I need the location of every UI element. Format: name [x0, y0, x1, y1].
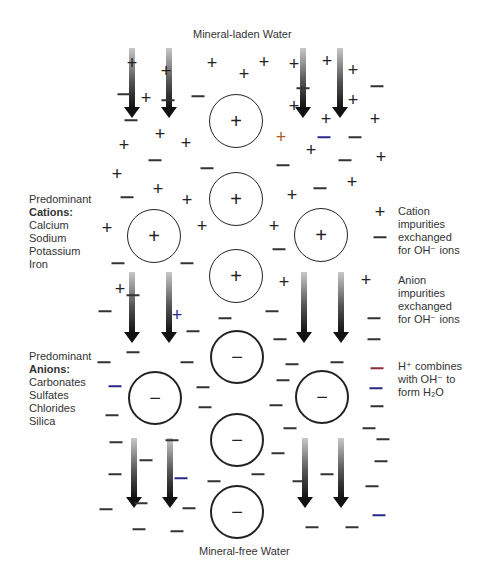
minus-icon	[346, 526, 359, 528]
minus-icon	[140, 459, 153, 461]
plus-icon: +	[348, 91, 359, 109]
down-arrow-icon	[332, 48, 348, 118]
anion-item: Chlorides	[29, 402, 91, 415]
minus-icon	[135, 502, 148, 504]
minus-icon	[110, 441, 123, 443]
minus-icon: −	[212, 347, 262, 367]
minus-icon	[349, 136, 362, 138]
minus-icon	[118, 93, 131, 95]
anion-resin-bead: −	[210, 413, 264, 467]
minus-icon	[199, 406, 212, 408]
anions-bold: Anions:	[29, 363, 91, 376]
down-arrow-icon	[161, 48, 177, 118]
plus-icon: +	[269, 217, 280, 235]
title-mineral-free-water: Mineral-free Water	[199, 545, 290, 557]
minus-icon	[100, 508, 113, 510]
anion-resin-bead: −	[128, 371, 182, 425]
minus-icon: −	[212, 502, 262, 522]
plus-icon: +	[289, 97, 300, 115]
minus-icon	[121, 196, 134, 198]
anion-item: Carbonates	[29, 376, 91, 389]
plus-icon: +	[289, 55, 300, 73]
label-line: form H₂O	[398, 386, 462, 399]
down-arrow-icon	[124, 272, 140, 343]
minus-icon	[363, 427, 376, 429]
cations-bold: Cations:	[29, 206, 91, 219]
arrow-head	[161, 107, 177, 118]
anion-item: Sulfates	[29, 389, 91, 402]
ion-exchange-diagram: Mineral-laden Water Mineral-free Water P…	[0, 0, 481, 578]
down-arrow-icon	[333, 272, 349, 343]
cation-resin-bead: +	[209, 249, 263, 303]
label-h-combines: H⁺ combines with OH⁻ to form H₂O	[398, 360, 462, 399]
down-arrow-icon	[297, 438, 313, 508]
plus-icon: +	[239, 65, 250, 83]
plus-icon: +	[153, 180, 164, 198]
plus-icon: +	[141, 89, 152, 107]
minus-icon	[371, 405, 384, 407]
minus-icon	[112, 262, 125, 264]
minus-icon	[192, 95, 205, 97]
minus-icon	[219, 317, 232, 319]
title-mineral-laden-water: Mineral-laden Water	[193, 28, 292, 40]
minus-icon	[339, 159, 352, 161]
plus-icon: +	[370, 110, 381, 128]
minus-icon	[274, 338, 287, 340]
arrow-head	[124, 332, 140, 343]
minus-icon	[370, 387, 383, 389]
minus-icon: −	[130, 388, 180, 408]
minus-icon	[373, 514, 386, 516]
anion-resin-bead: −	[295, 370, 349, 424]
minus-icon	[293, 480, 306, 482]
minus-icon	[171, 530, 184, 532]
cation-resin-bead: +	[209, 94, 263, 148]
anion-resin-bead: −	[210, 330, 264, 384]
minus-icon	[266, 310, 279, 312]
minus-icon	[270, 404, 283, 406]
minus-icon	[371, 367, 384, 369]
minus-icon	[371, 85, 384, 87]
minus-icon	[125, 119, 138, 121]
anions-heading: Predominant	[29, 350, 91, 363]
label-line: for OH⁻ ions	[398, 313, 460, 326]
arrow-head	[124, 107, 140, 118]
plus-icon: +	[210, 266, 262, 286]
plus-icon: +	[276, 128, 287, 146]
plus-icon: +	[182, 191, 193, 209]
plus-icon: +	[295, 225, 347, 245]
minus-icon	[297, 87, 310, 89]
cations-heading: Predominant	[29, 193, 91, 206]
plus-icon: +	[181, 134, 192, 152]
plus-icon: +	[102, 219, 113, 237]
minus-icon	[99, 310, 112, 312]
plus-icon: +	[172, 306, 183, 324]
minus-icon	[321, 473, 334, 475]
arrow-shaft	[301, 272, 307, 333]
arrow-shaft	[337, 48, 343, 108]
cation-item: Potassium	[29, 245, 91, 258]
arrow-shaft	[131, 438, 137, 498]
label-predominant-cations: Predominant Cations: Calcium Sodium Pota…	[29, 193, 91, 271]
label-line: Anion	[398, 274, 460, 287]
down-arrow-icon	[126, 438, 142, 508]
minus-icon	[374, 236, 387, 238]
arrow-shaft	[338, 272, 344, 333]
label-line: exchanged	[398, 231, 460, 244]
label-anion-exchange: Anion impurities exchanged for OH⁻ ions	[398, 274, 460, 326]
plus-icon: +	[287, 186, 298, 204]
plus-icon: +	[155, 125, 166, 143]
plus-icon: +	[347, 173, 358, 191]
minus-icon	[109, 473, 122, 475]
down-arrow-icon	[162, 438, 178, 508]
minus-icon	[366, 485, 379, 487]
minus-icon	[284, 427, 297, 429]
plus-icon: +	[348, 61, 359, 79]
label-line: with OH⁻ to	[398, 373, 462, 386]
plus-icon: +	[127, 54, 138, 72]
arrow-shaft	[338, 438, 344, 498]
arrow-head	[162, 497, 178, 508]
down-arrow-icon	[296, 272, 312, 343]
plus-icon: +	[259, 53, 270, 71]
minus-icon	[318, 136, 331, 138]
plus-icon: +	[322, 52, 333, 70]
